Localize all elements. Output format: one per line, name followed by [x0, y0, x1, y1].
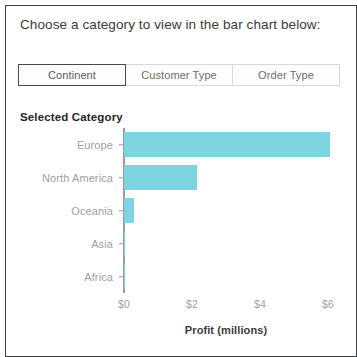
- slicer-option-customer-type[interactable]: Customer Type: [125, 64, 233, 86]
- category-slicer[interactable]: Continent Customer Type Order Type: [18, 64, 340, 86]
- bar[interactable]: [124, 165, 197, 190]
- x-axis-tick-label: $0: [118, 298, 130, 310]
- x-axis-tick-label: $2: [186, 298, 198, 310]
- bar-row[interactable]: North America: [124, 161, 328, 194]
- category-label: Europe: [77, 139, 113, 151]
- category-label: Africa: [84, 271, 113, 283]
- category-label: Asia: [91, 238, 113, 250]
- bar-row[interactable]: Oceania: [124, 194, 328, 227]
- slicer-option-continent[interactable]: Continent: [18, 64, 126, 86]
- bar-row[interactable]: Europe: [124, 128, 328, 161]
- slicer-option-order-type[interactable]: Order Type: [232, 64, 340, 86]
- plot-area: EuropeNorth AmericaOceaniaAsiaAfrica$0$2…: [124, 128, 328, 293]
- x-axis-title: Profit (millions): [124, 324, 328, 336]
- bar[interactable]: [124, 231, 125, 256]
- bar[interactable]: [124, 132, 330, 157]
- x-axis-tick-label: $6: [322, 298, 334, 310]
- instruction-text: Choose a category to view in the bar cha…: [20, 15, 338, 34]
- chart-title: Selected Category: [20, 111, 123, 123]
- bar[interactable]: [124, 198, 134, 223]
- bar-row[interactable]: Africa: [124, 260, 328, 293]
- bar[interactable]: [124, 264, 125, 289]
- category-label: North America: [42, 172, 113, 184]
- report-card: Choose a category to view in the bar cha…: [5, 5, 357, 357]
- bar-row[interactable]: Asia: [124, 227, 328, 260]
- category-label: Oceania: [71, 205, 113, 217]
- bar-chart: EuropeNorth AmericaOceaniaAsiaAfrica$0$2…: [6, 128, 350, 338]
- x-axis-tick-label: $4: [254, 298, 266, 310]
